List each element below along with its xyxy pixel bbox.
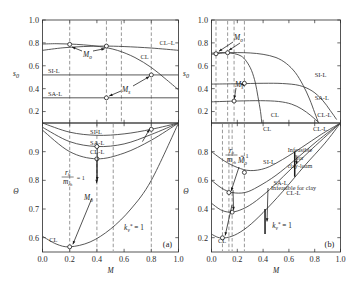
fraction-denominator: mrh <box>227 155 237 164</box>
curve-label-CL-L: CL-L <box>317 111 331 118</box>
lower-plot: 0.00.20.40.60.81.00.90.80.70.6SI-LSA-LCL… <box>29 123 184 264</box>
curve-label-CL: CL <box>140 53 148 60</box>
x-axis-label: M <box>107 266 115 275</box>
y-tick-label: 0.8 <box>198 148 208 157</box>
y-tick-label: 0.6 <box>198 176 208 185</box>
curve-SI-L <box>43 123 179 135</box>
curve-label-CL–L: CL–L <box>159 39 174 46</box>
arrow-Ms-a2-head <box>146 77 150 80</box>
curve-label-SA-L: SA-L <box>48 90 62 97</box>
curve-label-CL: CL <box>49 236 57 243</box>
label-CL-b-top: CL <box>263 125 271 132</box>
x-tick-label: 0.0 <box>206 255 216 264</box>
y-tick-label: 0.6 <box>29 62 39 71</box>
y-tick-label: 1.0 <box>198 16 208 25</box>
arrow-infeasible-clay-head <box>266 218 269 221</box>
x-tick-label: 0.2 <box>232 255 242 264</box>
arrow-Mo-a-lower-head <box>73 241 76 245</box>
panel-tag-1: (b) <box>325 240 335 249</box>
upper-axes-frame <box>43 20 179 123</box>
curve-label-SI-L: SI-L <box>90 128 102 135</box>
curve-CL <box>43 44 179 90</box>
fraction-annotation: rhmrh= 1 <box>62 168 85 187</box>
figure-root: 1.00.80.60.40.2CL–LCLSI-LSA-L0.00.20.40.… <box>0 0 347 285</box>
arrow-Mo-a-lower <box>73 198 92 244</box>
y-tick-label: 1.0 <box>29 16 39 25</box>
x-axis-label: M <box>272 266 280 275</box>
panel-b-extra-labels: CLCL-L <box>263 125 327 132</box>
fraction-denominator: mrh <box>63 177 73 186</box>
arrow-Mo-b2-head <box>229 47 233 50</box>
upper-y-axis-label-b: s0 <box>183 69 190 79</box>
fraction-numerator: rh <box>65 168 71 177</box>
curve-label-CL: CL <box>271 111 279 118</box>
curve-label-SI-L: SI-L <box>315 71 327 78</box>
upper-y-axis-label: s0 <box>13 69 20 79</box>
lower-y-axis-label-b: Θ <box>183 187 189 196</box>
annotations-a-upper: MoMs <box>72 47 149 96</box>
figure-canvas: 1.00.80.60.40.2CL–LCLSI-LSA-L0.00.20.40.… <box>0 0 347 285</box>
y-tick-label: 0.4 <box>29 85 39 94</box>
arrow-Ms-a1-head <box>109 94 113 97</box>
x-tick-label: 0.0 <box>37 255 47 264</box>
lower-y-axis-label: Θ <box>13 187 19 196</box>
y-tick-label: 0.4 <box>198 85 208 94</box>
marker-M_o-1 <box>227 191 231 195</box>
x-tick-label: 0.4 <box>92 255 102 264</box>
y-tick-label: 0.8 <box>29 176 39 185</box>
x-tick-label: 0.8 <box>310 255 320 264</box>
x-tick-label: 0.6 <box>284 255 294 264</box>
y-tick-label: 0.6 <box>29 234 39 243</box>
infeasible-clay-label: Infeasible for clay <box>271 184 317 191</box>
arrow-Mo-b1-head <box>219 48 223 51</box>
y-tick-label: 0.8 <box>29 39 39 48</box>
infeasible-clay-loam-line-2: clay-loam <box>288 162 313 169</box>
annotations-b-lower: Mo <box>225 156 248 236</box>
x-tick-label: 1.0 <box>173 255 183 264</box>
curve-label-SI-L: SI-L <box>263 158 275 165</box>
x-tick-label: 0.4 <box>258 255 268 264</box>
marker-M_s-2 <box>242 170 246 174</box>
y-tick-label: 0.2 <box>198 107 208 116</box>
label-Mo-b-upper: Mo <box>233 33 243 43</box>
label-Mo-a-upper: Mo <box>82 50 92 60</box>
y-tick-label: 0.7 <box>29 205 39 214</box>
marker-M_s-2 <box>104 96 108 100</box>
infeasible-clay-loam-line-0: Infeasible <box>288 146 313 153</box>
curve-label-SI-L: SI-L <box>48 67 60 74</box>
marker-M_o-0 <box>214 52 218 56</box>
panel-b: 1.00.80.60.40.2SI-LSA-LCL-LCL0.00.20.40.… <box>198 16 346 275</box>
panel-a: 1.00.80.60.40.2CL–LCLSI-LSA-L0.00.20.40.… <box>29 16 184 275</box>
x-tick-label: 0.6 <box>119 255 129 264</box>
marker-M_o-1 <box>104 44 108 48</box>
marker-M_o-0 <box>68 245 72 249</box>
arrow-Mo-b-lower-3-head <box>232 207 235 210</box>
label-Ms-a-upper: Ms <box>121 85 130 95</box>
arrow-Ms-a-lower-2-head <box>95 180 98 183</box>
marker-M_s-3 <box>232 99 236 103</box>
y-tick-label: 0.8 <box>198 39 208 48</box>
fraction-equals: = 1 <box>77 174 85 181</box>
annotations-b-upper: MoMs <box>219 33 244 99</box>
y-tick-label: 0.9 <box>29 148 39 157</box>
panel-tag-0: (a) <box>163 240 173 249</box>
lower-plot: 0.00.20.40.60.81.00.80.60.40.2SI-LSA-LCL… <box>198 123 346 264</box>
marker-M_o-0 <box>68 42 72 46</box>
marker-M_s-2 <box>95 145 99 149</box>
marker-M_o-0 <box>220 236 224 240</box>
x-tick-label: 0.2 <box>65 255 75 264</box>
label-CLL-b-top: CL-L <box>313 125 327 132</box>
kv-annotation: kv* = 1 <box>272 221 292 231</box>
y-tick-label: 0.6 <box>198 62 208 71</box>
y-tick-label: 0.2 <box>29 107 39 116</box>
lower-axes-frame <box>43 123 179 252</box>
marker-M_s-3 <box>149 73 153 77</box>
curve-CL-L <box>43 123 179 159</box>
upper-plot: 1.00.80.60.40.2CL–LCLSI-LSA-L <box>29 16 179 123</box>
upper-plot: 1.00.80.60.40.2SI-LSA-LCL-LCL <box>198 16 341 123</box>
marker-M_o-1 <box>226 51 230 55</box>
arrow-Mo-a1-head <box>72 47 76 49</box>
y-tick-label: 0.2 <box>198 234 208 243</box>
curve-label-SA-L: SA-L <box>315 94 329 101</box>
kv-annotation: kv* = 1 <box>124 223 144 233</box>
